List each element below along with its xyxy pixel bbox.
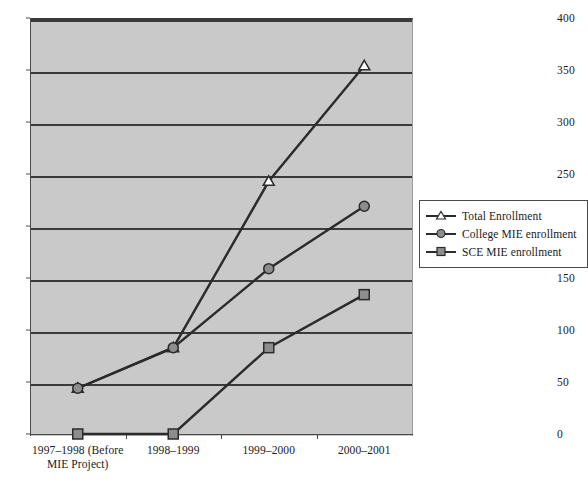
- y-tick-mark: [26, 330, 30, 331]
- y-tick-mark: [26, 382, 30, 383]
- y-tick-label: 100: [557, 324, 581, 336]
- gridline: [30, 176, 412, 178]
- y-tick-label: 400: [557, 12, 581, 24]
- legend-item-total-enrollment: Total Enrollment: [426, 207, 577, 225]
- y-tick-mark: [26, 434, 30, 435]
- legend: Total Enrollment College MIE enrollment …: [419, 200, 588, 268]
- gridline: [30, 384, 412, 386]
- gridline: [30, 124, 412, 126]
- legend-item-sce-mie-enrollment: SCE MIE enrollment: [426, 243, 577, 261]
- legend-item-label: Total Enrollment: [462, 210, 542, 222]
- y-tick-label: 50: [557, 376, 581, 388]
- gridline: [30, 332, 412, 334]
- legend-item-label: College MIE enrollment: [462, 228, 577, 240]
- gridline: [30, 280, 412, 282]
- y-tick-label: 150: [557, 272, 581, 284]
- y-tick-label: 300: [557, 116, 581, 128]
- y-axis: [30, 18, 31, 436]
- legend-item-label: SCE MIE enrollment: [462, 246, 562, 258]
- y-tick-label: 0: [557, 428, 581, 440]
- x-tick-mark: [221, 434, 222, 439]
- triangle-marker-icon: [426, 208, 456, 224]
- y-tick-mark: [26, 278, 30, 279]
- gridline: [30, 228, 412, 230]
- x-tick-mark: [317, 434, 318, 439]
- y-tick-label: 350: [557, 64, 581, 76]
- gridline: [30, 72, 412, 74]
- y-tick-label: 250: [557, 168, 581, 180]
- y-tick-mark: [26, 226, 30, 227]
- x-tick-mark: [126, 434, 127, 439]
- square-marker-icon: [426, 244, 456, 260]
- y-tick-mark: [26, 174, 30, 175]
- y-tick-mark: [26, 70, 30, 71]
- legend-item-college-mie-enrollment: College MIE enrollment: [426, 225, 577, 243]
- plot-area: [30, 18, 413, 436]
- gridline: [30, 20, 412, 22]
- y-tick-mark: [26, 18, 30, 19]
- y-tick-mark: [26, 122, 30, 123]
- circle-marker-icon: [426, 226, 456, 242]
- x-tick-label: 2000–2001: [309, 443, 421, 457]
